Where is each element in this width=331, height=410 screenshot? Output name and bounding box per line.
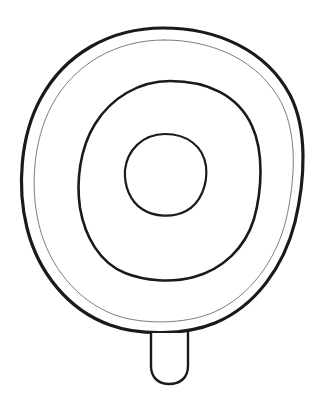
- artwork-canvas: Pan viewed from above line drawing: [0, 0, 331, 410]
- handle-stem-path: [151, 333, 188, 384]
- line-art-illustration: [0, 0, 331, 410]
